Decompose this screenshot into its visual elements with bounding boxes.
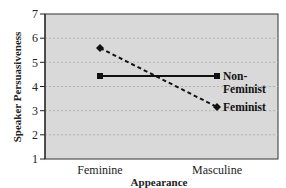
series-label-nonfeminist: Non-: [223, 70, 247, 82]
series-label-nonfeminist-2: Feminist: [223, 83, 266, 95]
interaction-line-chart: 1 2 3 4 5 6 7 Speaker Persuasiveness Non…: [0, 0, 286, 188]
y-axis: 1 2 3 4 5 6 7 Speaker Persuasiveness: [11, 7, 45, 166]
series-label-feminist: Feminist: [223, 101, 266, 113]
x-tick-label-feminine: Feminine: [77, 163, 122, 177]
y-tick-label: 5: [32, 56, 38, 70]
y-tick-label: 7: [32, 7, 38, 21]
square-marker: [214, 73, 220, 79]
y-tick-label: 1: [32, 152, 38, 166]
square-marker: [97, 73, 103, 79]
x-axis-title: Appearance: [131, 176, 188, 188]
y-tick-label: 6: [32, 31, 38, 45]
y-axis-title: Speaker Persuasiveness: [11, 31, 23, 142]
y-tick-label: 2: [32, 128, 38, 142]
y-tick-label: 4: [32, 80, 38, 94]
x-tick-label-masculine: Masculine: [192, 163, 242, 177]
y-tick-label: 3: [32, 104, 38, 118]
